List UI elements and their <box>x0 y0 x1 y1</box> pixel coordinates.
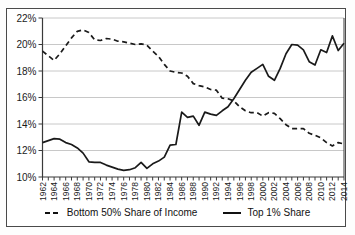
legend-item-bottom50: Bottom 50% Share of Income <box>45 207 198 218</box>
x-tick-label: 1990 <box>200 182 210 201</box>
legend-label-bottom50: Bottom 50% Share of Income <box>67 207 198 218</box>
x-tick-label: 1974 <box>107 182 117 201</box>
series-line-bottom50 <box>43 30 345 146</box>
y-tick-label: 16% <box>16 92 36 103</box>
x-tick-label: 1998 <box>246 182 256 201</box>
x-tick-label: 2002 <box>269 182 279 201</box>
x-tick-label: 1994 <box>223 182 233 201</box>
x-tick-label: 2006 <box>293 182 303 201</box>
legend-label-top1: Top 1% Share <box>247 207 310 218</box>
dashed-line-sample-icon <box>45 212 61 214</box>
solid-line-sample-icon <box>223 212 241 214</box>
x-tick-label: 1986 <box>177 182 187 201</box>
x-tick-label: 1964 <box>49 182 59 201</box>
x-tick-label: 1966 <box>61 182 71 201</box>
x-tick-label: 2010 <box>316 182 326 201</box>
chart-legend: Bottom 50% Share of Income Top 1% Share <box>8 207 347 218</box>
x-tick-label: 2000 <box>258 182 268 201</box>
x-tick-label: 1968 <box>72 182 82 201</box>
x-tick-label: 1982 <box>153 182 163 201</box>
x-tick-label: 1988 <box>188 182 198 201</box>
x-tick-label: 1976 <box>119 182 129 201</box>
y-tick-label: 18% <box>16 66 36 77</box>
chart-svg: 10%12%14%16%18%20%22%1962196419661968197… <box>0 0 355 235</box>
x-tick-label: 1972 <box>95 182 105 201</box>
legend-item-top1: Top 1% Share <box>223 207 310 218</box>
y-tick-label: 20% <box>16 39 36 50</box>
income-share-chart: 10%12%14%16%18%20%22%1962196419661968197… <box>0 0 355 235</box>
y-tick-label: 22% <box>16 13 36 24</box>
x-tick-label: 2008 <box>304 182 314 201</box>
x-tick-label: 2012 <box>327 182 337 201</box>
x-tick-label: 2014 <box>339 182 349 201</box>
x-tick-label: 1980 <box>142 182 152 201</box>
x-tick-label: 1984 <box>165 182 175 201</box>
x-tick-label: 2004 <box>281 182 291 201</box>
x-tick-label: 1970 <box>84 182 94 201</box>
y-tick-label: 14% <box>16 119 36 130</box>
x-tick-label: 1992 <box>211 182 221 201</box>
x-tick-label: 1996 <box>235 182 245 201</box>
y-tick-label: 10% <box>16 172 36 183</box>
x-tick-label: 1978 <box>130 182 140 201</box>
y-tick-label: 12% <box>16 145 36 156</box>
x-tick-label: 1962 <box>38 182 48 201</box>
